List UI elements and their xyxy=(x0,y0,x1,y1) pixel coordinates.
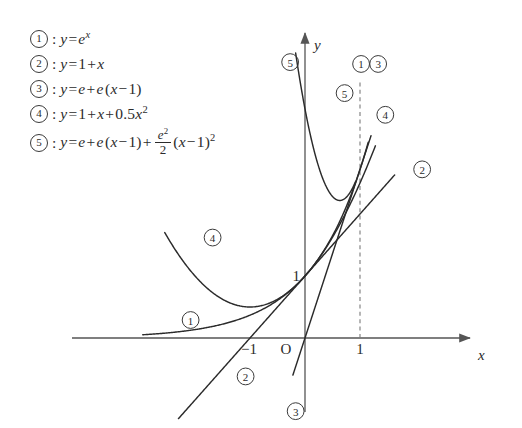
curve-tag-label-3-9: 3 xyxy=(293,406,299,418)
y-axis-label: y xyxy=(312,37,321,53)
figure-root: 1 : y=ex 2 : y=1+x 3 : y=e+e (x−1) 4 : y… xyxy=(0,0,522,428)
curve-group xyxy=(143,53,395,419)
tick-label-group: −1O11 xyxy=(241,268,364,357)
x-axis-label: x xyxy=(477,347,485,363)
curve-tag-label-5-2: 5 xyxy=(342,88,348,100)
curve-4 xyxy=(165,146,376,307)
curve-tag-group: 1355424123 xyxy=(182,54,430,420)
x-tick-label-origin: O xyxy=(281,341,292,357)
y-tick-label-1: 1 xyxy=(293,268,301,284)
curve-tag-label-2-8: 2 xyxy=(243,371,249,383)
curve-tag-label-4-6: 4 xyxy=(210,232,216,244)
coordinate-plot: x y −1O11 1355424123 xyxy=(0,0,522,428)
curve-1 xyxy=(143,142,369,335)
curve-tag-label-3-1: 3 xyxy=(375,58,381,70)
curve-tag-label-1-0: 1 xyxy=(358,58,364,70)
curve-tag-label-4-4: 4 xyxy=(383,109,389,121)
curve-tag-label-5-3: 5 xyxy=(287,57,293,69)
x-tick-label-neg1: −1 xyxy=(241,341,257,357)
curve-tag-label-1-7: 1 xyxy=(188,315,194,327)
curve-2 xyxy=(179,175,395,419)
curve-tag-label-2-5: 2 xyxy=(419,164,425,176)
x-tick-label-pos1: 1 xyxy=(356,341,364,357)
